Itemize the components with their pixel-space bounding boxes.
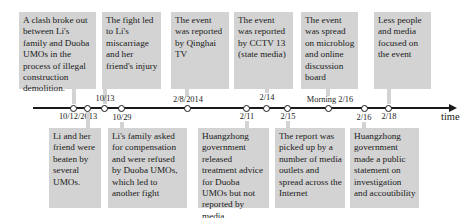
date-label: 2/18 bbox=[382, 112, 397, 121]
timeline-node bbox=[361, 105, 368, 112]
event-text: The event was reported by CCTV 13 (state… bbox=[238, 15, 286, 59]
event-box-compensation: Li's family asked for compensation and w… bbox=[108, 128, 187, 208]
date-label: 10/29 bbox=[112, 113, 131, 122]
event-box-media-pickup: The report was picked up by a number of … bbox=[275, 128, 345, 208]
timeline-node bbox=[70, 105, 77, 112]
timeline-node bbox=[263, 105, 270, 112]
event-pointer bbox=[86, 112, 90, 129]
timeline-node bbox=[325, 105, 332, 112]
event-box-cctv13: The event was reported by CCTV 13 (state… bbox=[234, 12, 293, 89]
event-box-treatment-advice: Huangzhong government released treatment… bbox=[198, 128, 269, 208]
date-label: 2/15 bbox=[281, 112, 296, 121]
event-box-microblog: The event was spread on microblog and on… bbox=[301, 12, 358, 89]
date-label: 2/11 bbox=[240, 112, 255, 121]
event-text: The report was picked up by a number of … bbox=[279, 131, 342, 198]
event-pointer bbox=[72, 88, 76, 104]
timeline-node bbox=[385, 105, 392, 112]
event-box-public-statement: Huangzhong government made a public stat… bbox=[350, 128, 419, 208]
event-text: Less people and media focused on the eve… bbox=[378, 15, 422, 59]
timeline-node bbox=[284, 105, 291, 112]
timeline-node bbox=[101, 105, 108, 112]
timeline-node bbox=[243, 105, 250, 112]
timeline-node bbox=[184, 105, 191, 112]
date-label: 2/8/2014 bbox=[173, 95, 203, 104]
event-text: Huangzhong government made a public stat… bbox=[354, 131, 416, 198]
event-box-clash: A clash broke out between Li's family an… bbox=[19, 12, 96, 89]
event-text: The event was spread on microblog and on… bbox=[305, 15, 354, 82]
date-label: Morning 2/16 bbox=[307, 95, 353, 104]
event-pointer bbox=[387, 88, 391, 104]
date-label: 10/13 bbox=[95, 94, 114, 103]
date-label: 10/12/2013 bbox=[59, 112, 97, 121]
event-text: A clash broke out between Li's family an… bbox=[23, 15, 89, 93]
event-box-less-attention: Less people and media focused on the eve… bbox=[374, 12, 431, 89]
event-box-qinghai-tv: The event was reported by Qinghai TV bbox=[171, 12, 229, 89]
event-text: Li's family asked for compensation and w… bbox=[112, 131, 178, 198]
event-text: Li and her friend were beaten by several… bbox=[53, 131, 95, 187]
date-label: 2/14 bbox=[260, 93, 275, 102]
event-text: Huangzhong government released treatment… bbox=[202, 131, 263, 218]
event-text: The fight led to Li's miscarriage and he… bbox=[106, 15, 157, 71]
axis-label: time bbox=[441, 111, 460, 122]
timeline-node bbox=[118, 105, 125, 112]
event-text: The event was reported by Qinghai TV bbox=[175, 15, 222, 59]
event-box-miscarriage: The fight led to Li's miscarriage and he… bbox=[102, 12, 161, 89]
timeline-node bbox=[84, 105, 91, 112]
date-label: 2/16 bbox=[357, 113, 372, 122]
event-box-beaten: Li and her friend were beaten by several… bbox=[49, 128, 101, 208]
